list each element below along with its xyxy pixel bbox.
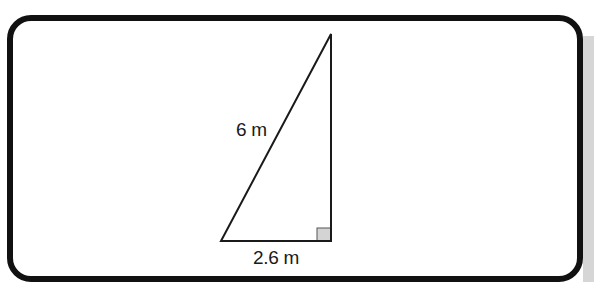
base-label: 2.6 m xyxy=(253,247,299,269)
right-angle-marker xyxy=(317,228,331,241)
triangle-diagram xyxy=(0,0,594,287)
hypotenuse-label: 6 m xyxy=(236,119,267,141)
